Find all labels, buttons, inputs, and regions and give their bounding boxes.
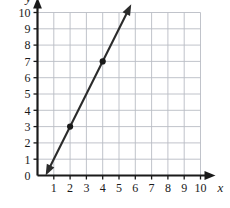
data-point bbox=[67, 124, 73, 130]
y-tick-label: 10 bbox=[19, 6, 31, 20]
x-tick-label: 10 bbox=[195, 181, 207, 195]
x-tick-label: 5 bbox=[116, 181, 122, 195]
plotted-line bbox=[46, 4, 132, 175]
y-tick-label: 5 bbox=[25, 87, 31, 101]
y-tick-label: 1 bbox=[25, 153, 31, 167]
x-axis-tick-labels: 12345678910 bbox=[51, 181, 207, 195]
chart-canvas: 12345678910 012345678910 yx bbox=[0, 0, 230, 208]
line-arrow-start bbox=[46, 164, 55, 176]
x-tick-label: 8 bbox=[165, 181, 171, 195]
x-tick-label: 3 bbox=[83, 181, 89, 195]
y-tick-label: 0 bbox=[25, 169, 31, 183]
y-tick-label: 8 bbox=[25, 38, 31, 52]
x-tick-label: 1 bbox=[51, 181, 57, 195]
x-tick-label: 7 bbox=[149, 181, 155, 195]
y-tick-label: 3 bbox=[25, 120, 31, 134]
axes bbox=[33, 0, 215, 180]
y-tick-label: 9 bbox=[25, 22, 31, 36]
y-axis-label: y bbox=[24, 0, 32, 5]
y-tick-label: 4 bbox=[25, 104, 31, 118]
data-point bbox=[100, 58, 106, 64]
x-tick-label: 6 bbox=[132, 181, 138, 195]
x-tick-label: 9 bbox=[181, 181, 187, 195]
line-arrow-end bbox=[123, 4, 132, 16]
y-tick-label: 6 bbox=[25, 71, 31, 85]
y-tick-label: 2 bbox=[25, 136, 31, 150]
x-tick-label: 4 bbox=[100, 181, 106, 195]
x-axis-label: x bbox=[217, 180, 224, 195]
coordinate-plane-chart: 12345678910 012345678910 yx bbox=[0, 0, 230, 208]
y-tick-label: 7 bbox=[25, 55, 31, 69]
x-tick-label: 2 bbox=[67, 181, 73, 195]
y-axis-tick-labels: 012345678910 bbox=[19, 6, 31, 183]
